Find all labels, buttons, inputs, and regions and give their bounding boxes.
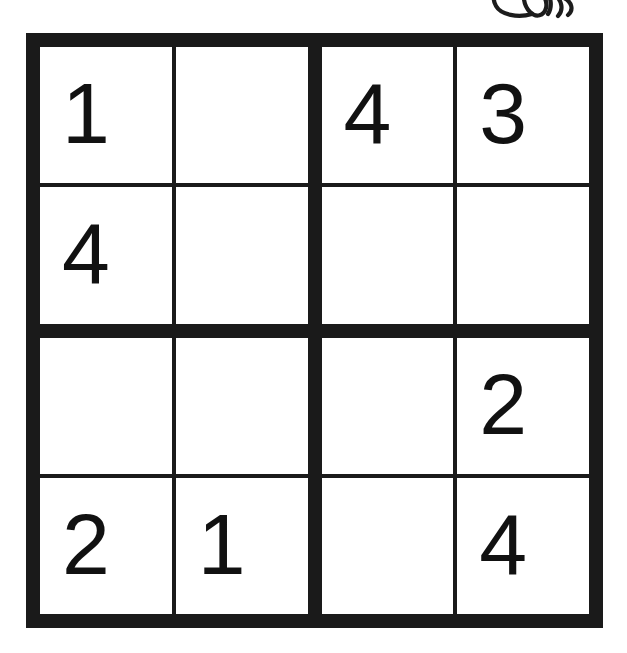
sudoku-row-2: 4 bbox=[40, 183, 589, 323]
sudoku-cell-r4c2[interactable]: 1 bbox=[172, 478, 308, 614]
sudoku-stack-right-r2 bbox=[308, 187, 590, 323]
sudoku-row-4: 2 1 4 bbox=[40, 474, 589, 614]
sudoku-stack-left-r3 bbox=[40, 338, 308, 474]
sudoku-cell-r1c3[interactable]: 4 bbox=[322, 47, 454, 183]
sudoku-digit-r2c1: 4 bbox=[40, 210, 110, 300]
sudoku-cell-r4c1[interactable]: 2 bbox=[40, 478, 172, 614]
sudoku-stack-right-r3: 2 bbox=[308, 338, 590, 474]
sudoku-digit-r1c4: 3 bbox=[457, 70, 527, 160]
sudoku-cell-r4c3[interactable] bbox=[322, 478, 454, 614]
sudoku-stack-right-r4: 4 bbox=[308, 478, 590, 614]
sudoku-stack-left-r4: 2 1 bbox=[40, 478, 308, 614]
sudoku-row-1: 1 4 3 bbox=[40, 47, 589, 183]
sudoku-cell-r3c3[interactable] bbox=[322, 338, 454, 474]
sudoku-cell-r3c4[interactable]: 2 bbox=[453, 338, 589, 474]
sudoku-cell-r2c3[interactable] bbox=[322, 187, 454, 323]
sudoku-grid-border: 1 4 3 bbox=[26, 33, 603, 628]
page-canvas: 1 4 3 bbox=[0, 0, 627, 653]
sudoku-cell-r1c1[interactable]: 1 bbox=[40, 47, 172, 183]
sudoku-cell-r3c1[interactable] bbox=[40, 338, 172, 474]
sudoku-digit-r1c3: 4 bbox=[322, 70, 392, 160]
sudoku-cell-r1c2[interactable] bbox=[172, 47, 308, 183]
sudoku-digit-r1c1: 1 bbox=[40, 70, 110, 160]
sudoku-cell-r4c4[interactable]: 4 bbox=[453, 478, 589, 614]
sudoku-stack-left-r1: 1 bbox=[40, 47, 308, 183]
sudoku-cell-r2c2[interactable] bbox=[172, 187, 308, 323]
sudoku-row-3: 2 bbox=[40, 338, 589, 474]
sudoku-cell-r2c4[interactable] bbox=[453, 187, 589, 323]
sudoku-grid[interactable]: 1 4 3 bbox=[26, 33, 603, 628]
handwritten-scribble-icon bbox=[478, 0, 598, 30]
sudoku-cell-r2c1[interactable]: 4 bbox=[40, 187, 172, 323]
sudoku-stack-right-r1: 4 3 bbox=[308, 47, 590, 183]
sudoku-band-bottom: 2 2 1 bbox=[40, 324, 589, 615]
sudoku-digit-r4c1: 2 bbox=[40, 501, 110, 591]
sudoku-digit-r4c2: 1 bbox=[176, 501, 246, 591]
sudoku-digit-r3c4: 2 bbox=[457, 361, 527, 451]
sudoku-digit-r4c4: 4 bbox=[457, 501, 527, 591]
sudoku-band-top: 1 4 3 bbox=[40, 47, 589, 324]
sudoku-cell-r3c2[interactable] bbox=[172, 338, 308, 474]
sudoku-cell-r1c4[interactable]: 3 bbox=[453, 47, 589, 183]
sudoku-stack-left-r2: 4 bbox=[40, 187, 308, 323]
